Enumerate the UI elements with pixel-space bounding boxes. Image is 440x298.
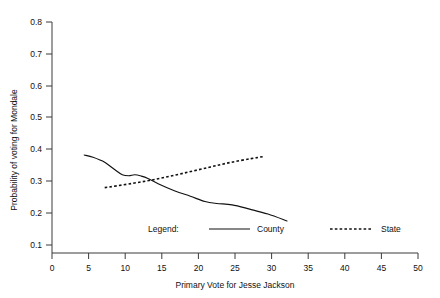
series-line-county [84,155,287,221]
legend-label-state: State [381,224,401,234]
x-tick-label-6: 30 [267,263,277,273]
y-tick-label-0: 0.8 [30,17,42,27]
y-axis-ticks [46,22,52,245]
line-chart-plot: 0.8 0.7 0.6 0.5 0.4 0.3 0.2 0.1 0 5 1 [0,0,440,298]
y-axis-tick-labels: 0.8 0.7 0.6 0.5 0.4 0.3 0.2 0.1 [30,17,42,250]
x-tick-label-5: 25 [230,263,240,273]
y-tick-label-1: 0.7 [30,49,42,59]
x-tick-label-2: 10 [120,263,130,273]
y-axis-title: Probability of voting for Mondale [9,89,19,211]
y-tick-label-7: 0.1 [30,240,42,250]
x-tick-label-9: 45 [377,263,387,273]
x-tick-label-4: 20 [194,263,204,273]
x-axis-title: Primary Vote for Jesse Jackson [175,280,294,290]
chart-legend: Legend: County State [148,224,401,234]
x-axis-tick-labels: 0 5 10 15 20 25 30 35 40 45 50 [50,263,423,273]
y-tick-label-5: 0.3 [30,176,42,186]
x-tick-label-3: 15 [157,263,167,273]
x-tick-label-8: 40 [340,263,350,273]
x-tick-label-1: 5 [86,263,91,273]
y-tick-label-6: 0.2 [30,208,42,218]
x-tick-label-10: 50 [413,263,423,273]
x-tick-label-7: 35 [303,263,313,273]
y-tick-label-4: 0.4 [30,144,42,154]
legend-label-county: County [257,224,285,234]
y-tick-label-2: 0.6 [30,81,42,91]
y-tick-label-3: 0.5 [30,112,42,122]
chart-container: 0.8 0.7 0.6 0.5 0.4 0.3 0.2 0.1 0 5 1 [0,0,440,298]
x-axis-ticks [52,253,418,259]
series-line-state [105,157,263,188]
legend-title: Legend: [148,224,179,234]
x-tick-label-0: 0 [50,263,55,273]
